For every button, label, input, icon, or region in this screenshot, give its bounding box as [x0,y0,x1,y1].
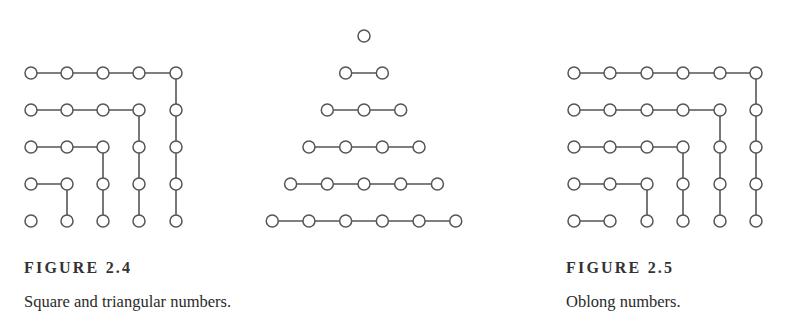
dot-node [677,178,689,190]
dot-node [604,215,616,227]
dot-node [133,141,145,153]
dot-node [170,141,182,153]
dot-node [61,67,73,79]
dot-node [376,141,388,153]
dot-node [714,215,726,227]
dot-node [604,104,616,116]
figure-2-4-caption: Square and triangular numbers. [24,292,231,312]
dot-node [604,141,616,153]
dot-node [358,104,370,116]
dot-node [750,215,762,227]
dot-node [170,104,182,116]
dot-node [568,104,580,116]
dot-node [170,67,182,79]
dot-node [677,141,689,153]
dot-node [25,178,37,190]
dot-node [61,215,73,227]
dot-node [97,104,109,116]
dot-node [641,178,653,190]
triangular-numbers-diagram [266,30,462,227]
oblong-numbers-diagram [568,67,762,227]
dot-node [285,178,297,190]
dot-node [358,178,370,190]
dot-node [25,104,37,116]
dot-node [61,104,73,116]
dot-node [376,67,388,79]
dot-node [750,141,762,153]
dot-node [395,178,407,190]
dot-node [340,141,352,153]
dot-node [395,104,407,116]
dot-node [133,178,145,190]
dot-node [133,215,145,227]
dot-node [61,141,73,153]
dot-node [340,215,352,227]
dot-node [568,141,580,153]
figure-2-5-caption: Oblong numbers. [566,292,681,312]
dot-node [25,215,37,227]
dot-node [677,104,689,116]
dot-node [133,67,145,79]
dot-node [714,178,726,190]
dot-node [431,178,443,190]
dot-node [133,104,145,116]
dot-node [97,178,109,190]
figure-diagrams [0,0,791,240]
dot-node [450,215,462,227]
dot-node [61,178,73,190]
dot-node [376,215,388,227]
dot-node [413,141,425,153]
dot-node [321,104,333,116]
dot-node [677,215,689,227]
dot-node [641,215,653,227]
dot-node [641,67,653,79]
dot-node [170,178,182,190]
dot-node [266,215,278,227]
dot-node [604,178,616,190]
dot-node [568,178,580,190]
dot-node [97,67,109,79]
dot-node [750,67,762,79]
dot-node [714,104,726,116]
dot-node [340,67,352,79]
dot-node [750,178,762,190]
dot-node [97,215,109,227]
dot-node [25,141,37,153]
dot-node [714,67,726,79]
figure-2-5-label: FIGURE 2.5 [566,259,674,277]
dot-node [413,215,425,227]
dot-node [97,141,109,153]
dot-node [677,67,689,79]
dot-node [604,67,616,79]
dot-node [714,141,726,153]
square-numbers-diagram [25,67,182,227]
dot-node [303,215,315,227]
dot-node [170,215,182,227]
dot-node [641,141,653,153]
dot-node [641,104,653,116]
dot-node [25,67,37,79]
figure-2-4-label: FIGURE 2.4 [24,259,132,277]
dot-node [568,215,580,227]
dot-node [750,104,762,116]
dot-node [303,141,315,153]
dot-node [321,178,333,190]
dot-node [568,67,580,79]
dot-node [358,30,370,42]
